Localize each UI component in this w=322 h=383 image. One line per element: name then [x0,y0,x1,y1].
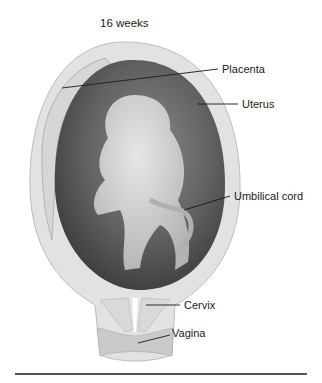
label-cervix: Cervix [184,299,215,311]
label-vagina: Vagina [172,327,205,339]
label-umbilical-cord: Umbilical cord [234,190,303,202]
label-placenta: Placenta [222,63,265,75]
bottom-rule [15,373,307,375]
label-uterus: Uterus [242,98,274,110]
